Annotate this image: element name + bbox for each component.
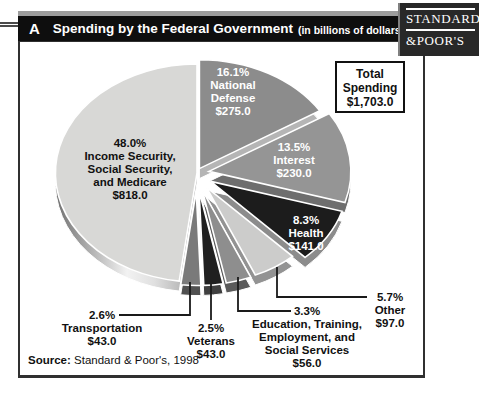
- total-spending-box: Total Spending $1,703.0: [335, 61, 405, 113]
- logo-text-poors: &POOR'S: [406, 31, 475, 49]
- source-label: Source:: [28, 354, 71, 366]
- slice-label-national-defense: 16.1%NationalDefense$275.0: [193, 66, 273, 118]
- total-box-line: $1,703.0: [337, 95, 403, 109]
- slice-label-health: 8.3%Health$141.0: [266, 214, 346, 253]
- figure-panel: A Spending by the Federal Government (in…: [0, 0, 479, 397]
- standard-and-poors-logo: STANDARD &POOR'S: [398, 3, 479, 56]
- total-box-line: Total: [337, 67, 403, 81]
- slice-label-interest: 13.5%Interest$230.0: [254, 141, 334, 180]
- slice-label-education-training-employment-and-social-services: 3.3%Education, Training,Employment, andS…: [237, 305, 377, 370]
- leader-line-other: [277, 267, 367, 297]
- logo-text-standard: STANDARD: [406, 8, 475, 31]
- total-box-line: Spending: [337, 81, 403, 95]
- source-note: Source: Standard & Poor's, 1998: [28, 354, 199, 366]
- slice-label-transportation: 2.6%Transportation$43.0: [52, 309, 152, 348]
- slice-label-income-security-social-security-and-medicare: 48.0%Income Security,Social Security,and…: [55, 137, 205, 202]
- source-text: Standard & Poor's, 1998: [71, 354, 199, 366]
